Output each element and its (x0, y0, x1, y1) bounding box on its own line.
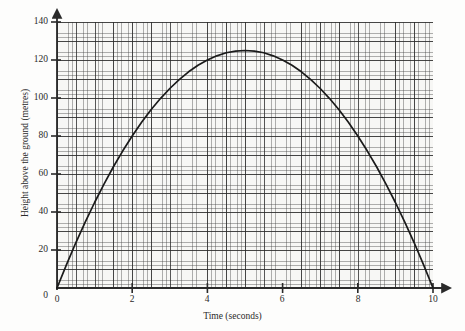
x-tick-label-8: 8 (346, 295, 370, 305)
x-tick-label-2: 2 (120, 295, 144, 305)
y-tick-label-140: 140 (14, 17, 48, 27)
x-tick-label-6: 6 (270, 295, 294, 305)
x-tick-label-10: 10 (421, 295, 445, 305)
y-tick-label-0: 0 (14, 291, 48, 301)
x-tick-label-4: 4 (195, 295, 219, 305)
graph-figure: 140 120 100 80 60 40 20 0 0 2 4 6 8 10 T… (0, 0, 465, 331)
x-tick-label-0: 0 (45, 295, 69, 305)
plot-area-graph-paper (57, 22, 433, 288)
y-axis-title: Height above the ground (metres) (20, 53, 30, 253)
x-axis-title: Time (seconds) (0, 311, 465, 321)
